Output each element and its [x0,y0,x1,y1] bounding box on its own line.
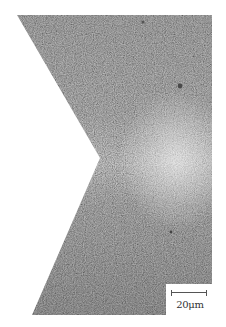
scale-bar-line [171,292,207,293]
particle-dot [170,231,173,234]
scale-bar-tick-right [206,290,207,296]
micrograph-image [0,0,226,327]
particle-dot [178,84,183,89]
scale-bar-label: 20μm [172,299,208,310]
particle-dot [141,20,144,23]
scale-bar [171,290,207,296]
scale-bar-tick-left [171,290,172,296]
specimen-region [0,0,226,327]
